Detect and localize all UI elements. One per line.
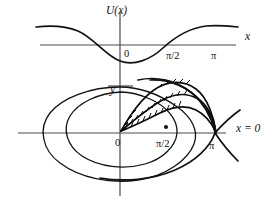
phase-x-equals-zero-label: x = 0 (235, 122, 261, 134)
figure-canvas: U(x) 0 π/2 π x (0, 0, 280, 207)
phase-pi-label: π (209, 140, 215, 151)
phase-y-label: y (109, 83, 116, 96)
phase-half-pi-label: π/2 (156, 138, 169, 149)
trajectory-hatched-1 (121, 101, 216, 132)
potential-half-pi-label: π/2 (166, 50, 179, 61)
potential-curve (36, 26, 238, 63)
potential-pi-label: π (211, 50, 217, 61)
potential-panel: U(x) 0 π/2 π x (36, 4, 251, 80)
phase-plane-panel: 0 π/2 π y x = 0 (18, 79, 261, 196)
separatrix-branch-lower-right (215, 133, 238, 161)
potential-origin-label: 0 (124, 48, 129, 59)
physics-figure: U(x) 0 π/2 π x (0, 0, 280, 207)
potential-x-label: x (244, 30, 251, 42)
phase-half-pi-dot (164, 125, 168, 129)
potential-axis-label: U(x) (106, 4, 127, 17)
phase-origin-label: 0 (115, 137, 120, 148)
